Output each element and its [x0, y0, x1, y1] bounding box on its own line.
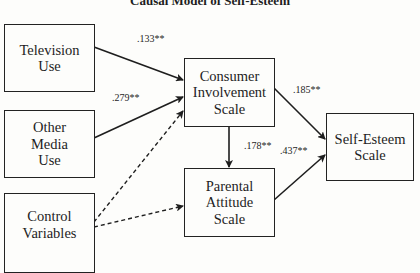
node-control-variables: ControlVariables [4, 193, 95, 273]
node-other-media-use: OtherMediaUse [4, 110, 95, 178]
arrow-consumer-to-esteem [274, 88, 325, 139]
coef-tv-consumer: .133** [137, 33, 165, 44]
node-parental-attitude-scale: ParentalAttitudeScale [184, 168, 275, 237]
arrow-control-to-consumer [94, 111, 183, 222]
coef-consumer-parental: .178** [244, 140, 272, 151]
arrow-media-to-consumer [94, 97, 183, 138]
arrow-parental-to-esteem [274, 155, 325, 200]
node-consumer-involvement-scale: ConsumerInvolvementScale [184, 58, 275, 127]
node-television-use: TelevisionUse [4, 24, 95, 92]
coef-consumer-esteem: .185** [293, 84, 321, 95]
node-self-esteem-scale: Self-EsteemScale [326, 113, 414, 181]
arrow-control-to-parental [94, 206, 183, 227]
coef-media-consumer: .279** [112, 92, 140, 103]
coef-parental-esteem: .437** [280, 145, 308, 156]
arrow-tv-to-consumer [94, 47, 183, 80]
